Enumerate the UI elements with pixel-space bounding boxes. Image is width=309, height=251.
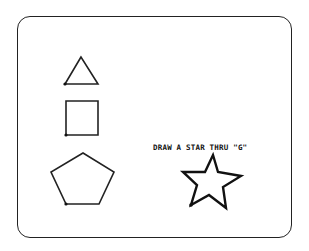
pentagon-shape[interactable] (51, 153, 114, 204)
drawing-canvas[interactable] (0, 0, 309, 251)
vertex-dot (64, 202, 67, 205)
instruction-text: DRAW A STAR THRU "G" (153, 143, 247, 152)
triangle-shape[interactable] (65, 57, 98, 84)
vertex-dot (63, 82, 66, 85)
vertex-dot (189, 203, 193, 207)
star-shape[interactable] (183, 155, 241, 208)
square-shape[interactable] (66, 101, 98, 135)
vertex-dot (64, 133, 67, 136)
